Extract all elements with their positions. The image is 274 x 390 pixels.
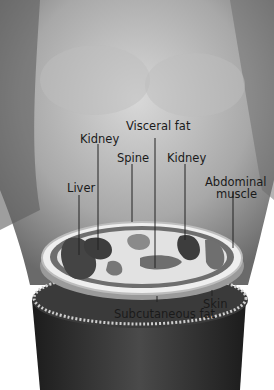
abdomen-diagram: Visceral fat Kidney Spine Kidney Liver A…	[0, 0, 274, 390]
label-visceral-fat: Visceral fat	[126, 120, 190, 132]
label-liver: Liver	[67, 182, 95, 194]
label-abdominal-muscle-2: muscle	[216, 188, 257, 200]
label-spine: Spine	[117, 152, 149, 164]
label-kidney-left: Kidney	[80, 133, 119, 145]
label-subcutaneous-fat: Subcutaneous fat	[114, 308, 215, 320]
label-kidney-right: Kidney	[167, 152, 206, 164]
